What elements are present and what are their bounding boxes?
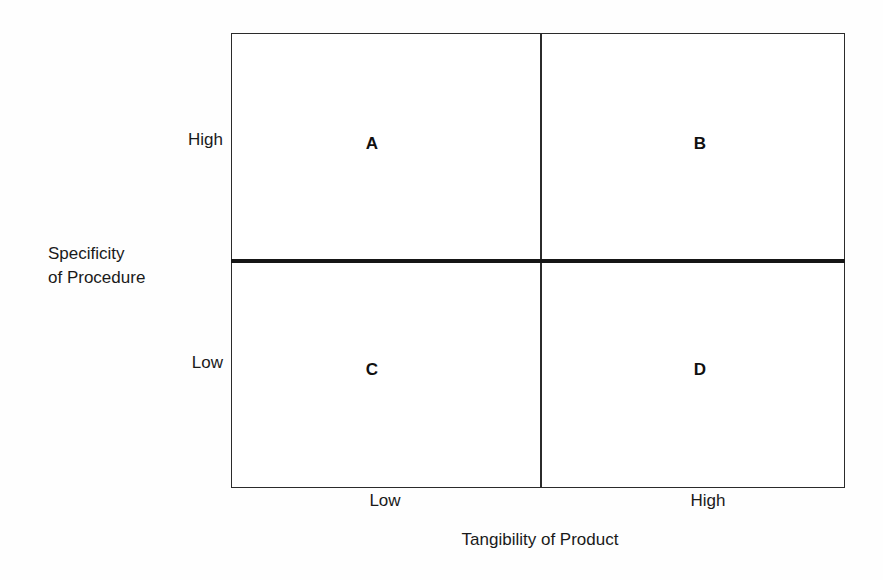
quadrant-label-b: B: [680, 134, 720, 154]
horizontal-divider-thick: [231, 259, 845, 263]
y-axis-title-line-1: Specificity: [48, 242, 145, 266]
quadrant-label-c: C: [352, 360, 392, 380]
x-axis-tick-low: Low: [340, 491, 430, 511]
quadrant-label-d: D: [680, 360, 720, 380]
quadrant-label-a: A: [352, 134, 392, 154]
y-axis-title-line-2: of Procedure: [48, 266, 145, 290]
x-axis-title: Tangibility of Product: [390, 530, 690, 550]
x-axis-tick-high: High: [663, 491, 753, 511]
y-axis-title: Specificity of Procedure: [48, 242, 145, 290]
matrix-diagram-canvas: A B C D High Low Specificity of Procedur…: [0, 0, 883, 580]
y-axis-tick-high: High: [143, 130, 223, 150]
y-axis-tick-low: Low: [143, 353, 223, 373]
